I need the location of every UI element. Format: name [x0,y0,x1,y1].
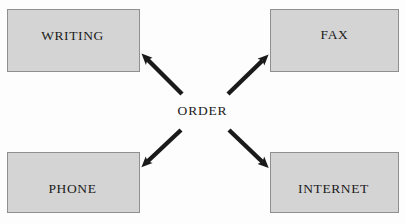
node-writing-label: WRITING [41,28,104,44]
arrow-order-to-internet [229,130,269,168]
node-phone-label: PHONE [48,181,96,197]
center-node-order-label: ORDER [0,103,405,119]
arrow-order-to-fax [228,55,269,94]
arrow-order-to-writing [142,54,183,95]
order-channels-diagram: WRITING FAX PHONE INTERNET ORDER [0,0,405,224]
node-internet-label: INTERNET [298,181,369,197]
node-fax: FAX [270,9,399,72]
arrow-order-to-phone [141,130,181,167]
node-writing: WRITING [7,9,140,72]
node-fax-label: FAX [321,27,349,43]
node-phone: PHONE [7,152,140,213]
node-internet: INTERNET [270,152,399,213]
